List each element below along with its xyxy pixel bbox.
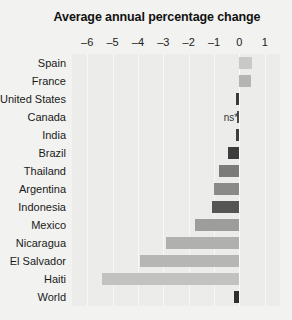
category-label: Canada <box>27 111 66 123</box>
category-label: India <box>42 129 66 141</box>
category-label: Haiti <box>44 273 66 285</box>
category-label: World <box>37 291 66 303</box>
category-label: Brazil <box>38 147 66 159</box>
bar-row <box>72 198 280 216</box>
bar[interactable] <box>195 219 239 231</box>
bar[interactable] <box>239 75 250 87</box>
bar[interactable] <box>228 147 239 159</box>
bar-row <box>72 54 280 72</box>
plot-area: ns* <box>72 54 280 306</box>
category-label: Mexico <box>31 219 66 231</box>
bar[interactable] <box>236 93 240 105</box>
category-label: Thailand <box>24 165 66 177</box>
x-tick-label: –6 <box>81 36 93 48</box>
bar-row <box>72 90 280 108</box>
category-label: Spain <box>38 57 66 69</box>
category-axis-labels: SpainFranceUnited StatesCanadaIndiaBrazi… <box>0 54 70 306</box>
bar-row <box>72 162 280 180</box>
bar-annotation: ns* <box>224 112 238 123</box>
category-label: El Salvador <box>10 255 66 267</box>
bar-row <box>72 216 280 234</box>
bar[interactable] <box>219 165 239 177</box>
x-tick-label: 1 <box>262 36 268 48</box>
bar-row <box>72 180 280 198</box>
bar[interactable] <box>214 183 239 195</box>
x-tick-label: 0 <box>236 36 242 48</box>
bar-row <box>72 72 280 90</box>
bars-layer: ns* <box>72 54 280 306</box>
category-label: Argentina <box>19 183 66 195</box>
x-tick-label: –2 <box>183 36 195 48</box>
category-label: Indonesia <box>18 201 66 213</box>
x-tick-label: –3 <box>157 36 169 48</box>
chart-title: Average annual percentage change <box>0 10 292 24</box>
x-tick-label: –1 <box>208 36 220 48</box>
bar-row <box>72 144 280 162</box>
x-axis-tick-labels: –6–5–4–3–2–101 <box>0 36 292 52</box>
bar[interactable] <box>234 291 239 303</box>
bar-row <box>72 288 280 306</box>
category-label: Nicaragua <box>16 237 66 249</box>
chart-container: Average annual percentage change –6–5–4–… <box>0 0 292 320</box>
x-tick-label: –4 <box>132 36 144 48</box>
bar[interactable] <box>212 201 240 213</box>
bar-row <box>72 270 280 288</box>
bar[interactable] <box>236 129 239 141</box>
bar-row <box>72 126 280 144</box>
category-label: United States <box>0 93 66 105</box>
bar[interactable] <box>140 255 239 267</box>
category-label: France <box>32 75 66 87</box>
bar-row: ns* <box>72 108 280 126</box>
x-tick-label: –5 <box>106 36 118 48</box>
bar[interactable] <box>166 237 240 249</box>
bar-row <box>72 234 280 252</box>
bar[interactable] <box>102 273 239 285</box>
bar-row <box>72 252 280 270</box>
bar[interactable] <box>239 57 252 69</box>
